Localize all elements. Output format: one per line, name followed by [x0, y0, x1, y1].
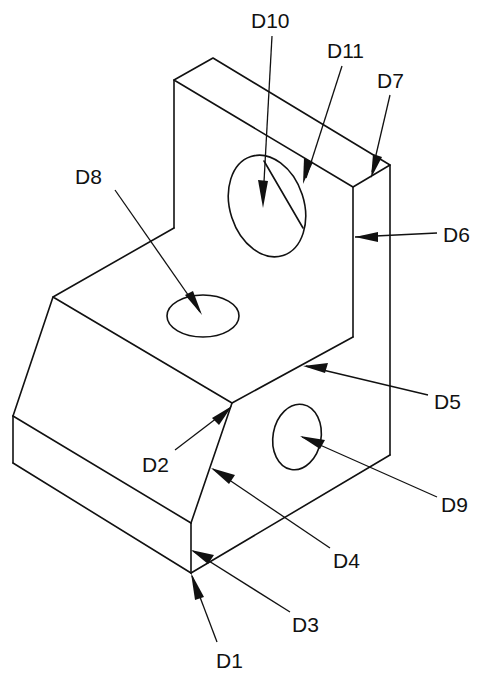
label-D2: D2	[142, 453, 169, 476]
label-D10: D10	[251, 9, 290, 32]
label-D4: D4	[333, 549, 360, 572]
label-D7: D7	[377, 69, 404, 92]
part-drawing: D10 D11 D7 D8 D6 D5 D2 D9 D4 D3 D1	[0, 0, 484, 686]
label-D8: D8	[75, 165, 102, 188]
top-face	[53, 228, 353, 403]
hole-D9	[268, 400, 327, 473]
label-D5: D5	[434, 390, 461, 413]
back-plate	[174, 58, 390, 455]
label-D3: D3	[292, 613, 319, 636]
labels: D10 D11 D7 D8 D6 D5 D2 D9 D4 D3 D1	[75, 9, 470, 672]
front-faces	[13, 297, 390, 573]
hole-D10	[216, 145, 319, 267]
leaders	[115, 36, 437, 642]
label-D6: D6	[443, 223, 470, 246]
label-D1: D1	[216, 649, 243, 672]
label-D9: D9	[441, 493, 468, 516]
label-D11: D11	[327, 39, 364, 62]
hole-D8	[167, 295, 239, 337]
